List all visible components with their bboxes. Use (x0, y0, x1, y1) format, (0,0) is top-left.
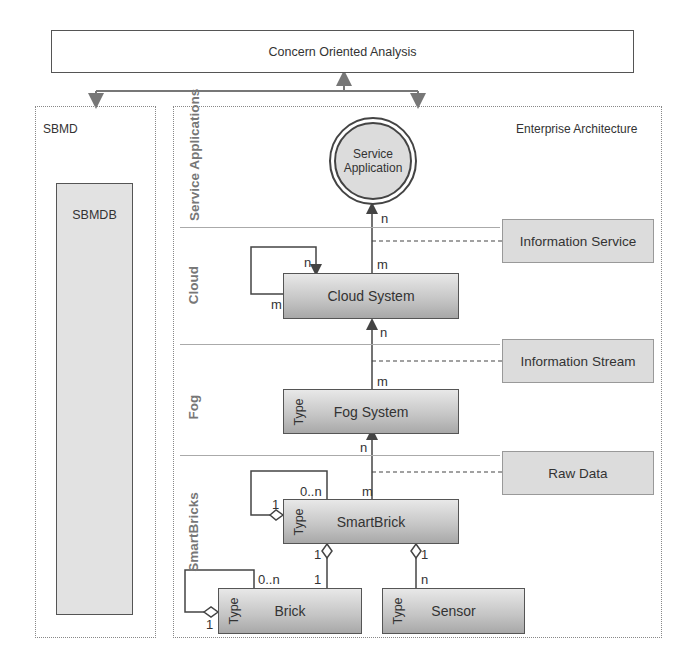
sensor-class: Type Sensor (382, 588, 525, 634)
service-application-label: Service Application (338, 147, 408, 176)
sbmdb-label: SBMDB (72, 208, 116, 222)
multiplicity: m (377, 374, 388, 389)
lane-label-smartbricks: SmartBricks (186, 487, 204, 577)
lane-label-cloud: Cloud (186, 255, 204, 315)
smartbrick-class: Type SmartBrick (283, 499, 459, 544)
multiplicity: 1 (314, 572, 321, 587)
multiplicity: n (381, 211, 388, 226)
multiplicity: 1 (314, 547, 321, 562)
sensor-type-stereotype: Type (391, 597, 405, 624)
information-stream-label: Information Stream (521, 354, 636, 369)
lane-divider (180, 227, 500, 228)
fog-system-class: Type Fog System (283, 389, 459, 434)
lane-label-service-applications: Service Applications (187, 111, 223, 221)
multiplicity: m (377, 257, 388, 272)
lane-label-fog: Fog (186, 387, 204, 427)
raw-data-box: Raw Data (502, 451, 654, 495)
fog-type-stereotype: Type (292, 398, 306, 425)
sbmd-label: SBMD (43, 122, 78, 136)
concern-oriented-analysis-box: Concern Oriented Analysis (51, 30, 634, 73)
multiplicity: 1 (272, 497, 279, 512)
information-service-label: Information Service (520, 234, 636, 249)
smartbrick-label: SmartBrick (337, 514, 405, 530)
information-service-box: Information Service (502, 219, 654, 263)
raw-data-label: Raw Data (548, 466, 607, 481)
sensor-label: Sensor (431, 603, 475, 619)
multiplicity: 0..n (300, 484, 322, 499)
information-stream-box: Information Stream (502, 339, 654, 383)
multiplicity: 0..n (258, 572, 280, 587)
multiplicity: n (360, 440, 367, 455)
sbmdb-box: SBMDB (56, 183, 133, 615)
concern-oriented-analysis-label: Concern Oriented Analysis (269, 45, 417, 59)
multiplicity: m (271, 297, 282, 312)
lane-divider (180, 455, 500, 456)
enterprise-architecture-label: Enterprise Architecture (516, 122, 637, 136)
brick-class: Type Brick (218, 588, 362, 634)
brick-type-stereotype: Type (227, 597, 241, 624)
multiplicity: m (362, 484, 373, 499)
smartbrick-type-stereotype: Type (292, 508, 306, 535)
multiplicity: 1 (421, 547, 428, 562)
lane-divider (180, 344, 500, 345)
cloud-system-class: Cloud System (283, 273, 459, 319)
cloud-system-label: Cloud System (327, 288, 414, 304)
fog-system-label: Fog System (334, 404, 409, 420)
service-application-node: Service Application (329, 117, 417, 205)
multiplicity: n (380, 325, 387, 340)
multiplicity: n (421, 572, 428, 587)
brick-label: Brick (274, 603, 305, 619)
multiplicity: 1 (206, 617, 213, 632)
multiplicity: n (304, 255, 311, 270)
